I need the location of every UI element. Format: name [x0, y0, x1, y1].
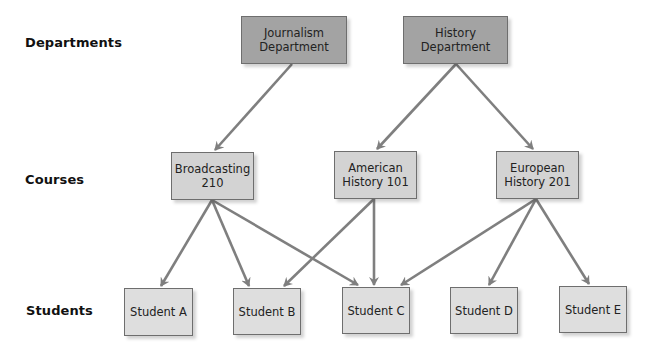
edge-history-european [456, 64, 533, 149]
node-student-c: Student C [342, 287, 410, 334]
node-american-history-101: American History 101 [334, 151, 417, 199]
node-label: Student B [239, 305, 296, 319]
hierarchy-diagram: Departments Courses Students Journalism … [0, 0, 650, 359]
edge-european-student-c [401, 199, 536, 285]
node-student-d: Student D [450, 287, 518, 334]
node-label: Student E [565, 303, 621, 317]
node-label: European History 201 [504, 161, 571, 189]
edge-american-student-b [284, 199, 374, 286]
edge-european-student-e [536, 199, 589, 284]
node-broadcasting-210: Broadcasting 210 [171, 152, 254, 200]
row-label-courses: Courses [25, 172, 84, 187]
row-label-departments: Departments [25, 35, 122, 50]
node-history-department: History Department [403, 16, 508, 64]
edge-journalism-broadcasting [215, 64, 292, 150]
node-european-history-201: European History 201 [496, 151, 579, 199]
row-label-students: Students [26, 303, 93, 318]
node-label: Journalism Department [259, 26, 329, 54]
node-label: Student A [130, 305, 187, 319]
edge-broadcasting-student-c [212, 200, 358, 285]
node-label: Student D [455, 304, 513, 318]
edge-history-american [377, 64, 456, 149]
node-student-b: Student B [233, 288, 301, 335]
edge-broadcasting-student-a [161, 200, 212, 286]
node-student-e: Student E [559, 286, 627, 333]
edge-broadcasting-student-b [212, 200, 249, 286]
node-label: History Department [421, 26, 491, 54]
node-student-a: Student A [124, 288, 193, 336]
node-label: American History 101 [342, 161, 409, 189]
node-label: Broadcasting 210 [175, 162, 250, 190]
edge-european-student-d [489, 199, 536, 285]
node-label: Student C [348, 304, 405, 318]
node-journalism-department: Journalism Department [241, 16, 347, 64]
